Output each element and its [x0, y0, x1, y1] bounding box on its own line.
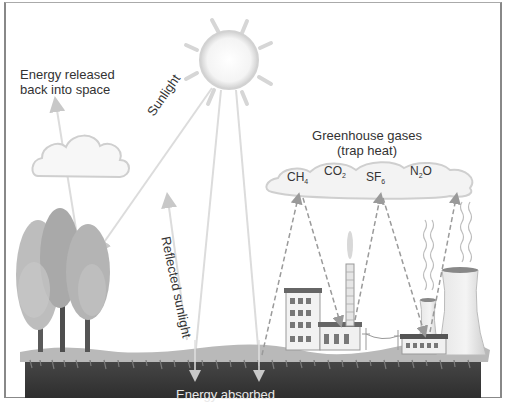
- greenhouse-gases-line-2: (trap heat): [307, 143, 427, 158]
- heat-arrow-up-2: [355, 198, 380, 320]
- energy-released-line-2: back into space: [20, 82, 115, 97]
- energy-absorbed-label: Energy absorbed: [176, 387, 275, 402]
- gas-n2o: N2O: [410, 164, 432, 179]
- energy-released-label: Energy released back into space: [20, 67, 115, 97]
- greenhouse-gases-line-1: Greenhouse gases: [307, 128, 427, 143]
- diagram-scene: [0, 0, 508, 414]
- gas-ch4: CH4: [287, 170, 308, 185]
- cloud-icon: [32, 136, 129, 177]
- gas-co2: CO2: [324, 164, 346, 179]
- factory-icon: [284, 231, 362, 350]
- greenhouse-gases-label: Greenhouse gases (trap heat): [307, 128, 427, 158]
- sunlight-ray-1: [195, 90, 221, 358]
- power-pylons: [362, 328, 402, 350]
- sun-icon: [186, 20, 271, 104]
- trees-icon: [16, 208, 110, 352]
- power-plant-icon: [400, 267, 486, 355]
- energy-released-line-1: Energy released: [20, 67, 115, 82]
- sunlight-ray-2: [236, 90, 259, 358]
- heat-arrow-down-2: [383, 198, 424, 332]
- gas-sf6: SF6: [366, 170, 385, 185]
